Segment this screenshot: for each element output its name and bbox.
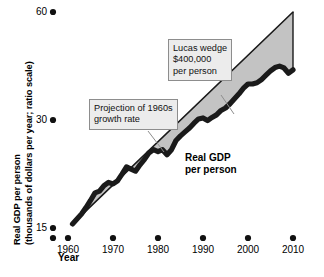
x-axis-tick-dot: [110, 235, 116, 241]
y-axis-label: Real GDP per person (thousands of dollar…: [0, 0, 36, 250]
x-axis-tick-label: 1990: [183, 244, 223, 255]
chart-plot-area: [0, 0, 324, 277]
series-label-real-gdp-line2: per person: [185, 164, 237, 176]
y-axis-tick-label: 60: [19, 6, 47, 17]
x-axis-tick-label: 1970: [93, 244, 133, 255]
x-axis-tick-label: 1980: [138, 244, 178, 255]
y-axis-tick-label: 30: [19, 114, 47, 125]
annotation-projection-line1: Projection of 1960s: [94, 103, 173, 114]
x-axis-tick-label: 2000: [228, 244, 268, 255]
x-axis-tick-dot: [200, 235, 206, 241]
y-axis-label-line2: (thousands of dollars per year; ratio sc…: [24, 61, 34, 245]
annotation-projection: Projection of 1960s growth rate: [89, 99, 178, 130]
x-axis-tick-dot: [65, 235, 71, 241]
real-gdp-curve: [73, 66, 294, 224]
x-axis-origin-dot: [50, 235, 56, 241]
x-axis-tick-dot: [245, 235, 251, 241]
annotation-lucas-wedge-line2: $400,000: [173, 54, 227, 65]
y-axis-tick-dots: [50, 9, 56, 231]
y-axis-tick-label: 15: [19, 222, 47, 233]
x-axis-tick-dot: [155, 235, 161, 241]
chart-figure: Real GDP per person (thousands of dollar…: [0, 0, 324, 277]
series-label-real-gdp-line1: Real GDP: [185, 152, 237, 164]
annotation-lucas-wedge-line1: Lucas wedge: [173, 43, 227, 54]
x-axis-tick-dots: [50, 235, 296, 241]
annotation-projection-line2: growth rate: [94, 114, 173, 125]
series-label-real-gdp: Real GDP per person: [185, 152, 237, 176]
annotation-lucas-wedge-line3: per person: [173, 66, 227, 77]
y-axis-tick-dot: [50, 9, 56, 15]
y-axis-tick-dot: [50, 117, 56, 123]
annotation-lucas-wedge: Lucas wedge $400,000 per person: [168, 39, 232, 81]
x-axis-tick-label: 2010: [273, 244, 313, 255]
x-axis-title: Year: [58, 252, 79, 263]
y-axis-tick-dot: [50, 225, 56, 231]
x-axis-tick-dot: [290, 235, 296, 241]
